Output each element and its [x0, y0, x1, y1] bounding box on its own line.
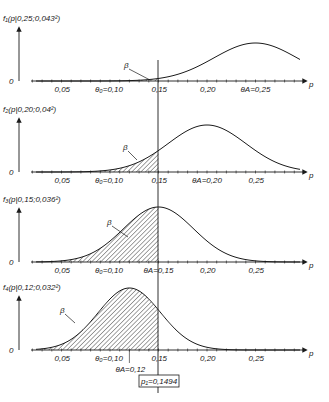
theta-a-label: θA=0,12	[115, 365, 145, 374]
p-axis-label: p	[308, 349, 314, 358]
x-tick-label: θ₀=0,10	[95, 85, 124, 94]
zero-label: 0	[9, 168, 14, 177]
x-tick-label: θA=0,15	[144, 266, 174, 275]
x-tick-label: 0,20	[200, 266, 216, 275]
beta-hatched-area	[36, 288, 159, 350]
zero-label: 0	[9, 258, 14, 267]
panel-2: f₂(p|0,20;0,04²)0p0,05θ₀=0,100,15θA=0,20…	[3, 105, 314, 185]
panel-3: f₃(p|0,15;0,036²)0p0,05θ₀=0,10θA=0,150,2…	[3, 195, 314, 275]
x-tick-label: 0,15	[152, 85, 168, 94]
power-curves-figure: f₁(p|0,25;0,043²)0p0,05θ₀=0,100,150,20θA…	[0, 0, 329, 402]
panel-1: f₁(p|0,25;0,043²)0p0,05θ₀=0,100,150,20θA…	[3, 14, 314, 94]
x-tick-label: 0,15	[152, 176, 168, 185]
density-curve	[36, 125, 300, 172]
y-axis-label: f₄(p|0,12;0,032²)	[3, 283, 61, 292]
p1-annotation-box: p₁=0,1494	[139, 375, 179, 387]
x-tick-label: 0,25	[249, 354, 265, 363]
y-axis-label: f₂(p|0,20;0,04²)	[3, 105, 56, 114]
p1-annotation-text: p₁=0,1494	[140, 377, 178, 386]
beta-label: β	[59, 306, 65, 315]
x-tick-label: 0,05	[55, 85, 71, 94]
x-tick-label: 0,05	[55, 176, 71, 185]
x-tick-label: 0,20	[200, 354, 216, 363]
beta-hatched-area	[36, 207, 159, 262]
beta-leader-line	[129, 69, 150, 80]
zero-label: 0	[9, 77, 14, 86]
beta-leader-line	[128, 151, 137, 160]
p-axis-label: p	[308, 80, 314, 89]
panel-4: f₄(p|0,12;0,032²)0p0,05θ₀=0,100,150,200,…	[3, 283, 314, 374]
x-tick-label: 0,05	[55, 266, 71, 275]
beta-label: β	[106, 218, 112, 227]
x-tick-label: θ₀=0,10	[95, 176, 124, 185]
y-axis-label: f₃(p|0,15;0,036²)	[3, 195, 61, 204]
zero-label: 0	[9, 346, 14, 355]
density-curve	[36, 43, 300, 81]
p-axis-label: p	[308, 171, 314, 180]
x-tick-label: 0,25	[249, 266, 265, 275]
x-tick-label: 0,15	[152, 354, 168, 363]
beta-label: β	[123, 61, 129, 70]
density-curve	[36, 207, 300, 262]
x-tick-label: 0,25	[249, 176, 265, 185]
x-tick-label: θA=0,20	[192, 176, 222, 185]
beta-leader-line	[65, 314, 75, 323]
y-axis-label: f₁(p|0,25;0,043²)	[3, 14, 60, 23]
x-tick-label: 0,20	[200, 85, 216, 94]
beta-label: β	[122, 143, 128, 152]
x-tick-label: θ₀=0,10	[95, 266, 124, 275]
x-tick-label: θ₀=0,10	[95, 354, 124, 363]
x-tick-label: θA=0,25	[241, 85, 271, 94]
p-axis-label: p	[308, 261, 314, 270]
x-tick-label: 0,05	[55, 354, 71, 363]
